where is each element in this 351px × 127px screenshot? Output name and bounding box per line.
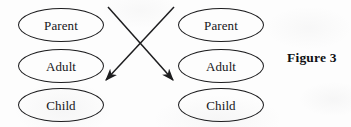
left-ego-state-child[interactable]: Child (18, 88, 104, 122)
right-ego-state-child[interactable]: Child (178, 88, 264, 122)
arrow-left-parent-to-right-child (108, 7, 173, 80)
right-ego-state-parent-label: Parent (204, 18, 238, 31)
arrow-right-parent-to-left-child (106, 7, 174, 80)
figure-caption: Figure 3 (287, 50, 337, 66)
right-ego-state-adult[interactable]: Adult (178, 49, 264, 83)
right-ego-state-child-label: Child (206, 98, 235, 111)
left-ego-state-adult[interactable]: Adult (18, 49, 104, 83)
left-ego-state-child-label: Child (46, 98, 75, 111)
right-ego-state-parent[interactable]: Parent (178, 8, 264, 42)
left-ego-state-parent[interactable]: Parent (18, 8, 104, 42)
figure-container: Parent Adult Child Parent Adult Child Fi… (0, 0, 351, 127)
right-ego-state-adult-label: Adult (206, 59, 236, 72)
left-ego-state-adult-label: Adult (46, 59, 76, 72)
left-ego-state-parent-label: Parent (44, 18, 78, 31)
